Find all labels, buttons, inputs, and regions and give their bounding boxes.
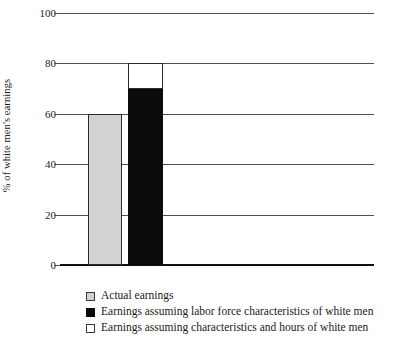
tick-mark-20 bbox=[54, 215, 60, 216]
tick-mark-80 bbox=[54, 63, 60, 64]
legend-item-0[interactable]: Actual earnings bbox=[86, 288, 396, 304]
legend-label-2: Earnings assuming characteristics and ho… bbox=[101, 322, 368, 334]
actual-earnings-bar bbox=[88, 114, 122, 265]
legend-item-2[interactable]: Earnings assuming characteristics and ho… bbox=[86, 320, 396, 336]
y-tick-label-0: 0 bbox=[10, 260, 56, 271]
legend-label-0: Actual earnings bbox=[101, 290, 174, 302]
y-tick-label-100: 100 bbox=[10, 8, 56, 19]
tick-mark-40 bbox=[54, 164, 60, 165]
tick-mark-60 bbox=[54, 114, 60, 115]
legend-item-1[interactable]: Earnings assuming labor force characteri… bbox=[86, 304, 396, 320]
legend-swatch-icon-2 bbox=[86, 324, 95, 333]
y-tick-label-80: 80 bbox=[10, 58, 56, 69]
gridline-80 bbox=[60, 63, 374, 64]
tick-mark-100 bbox=[54, 13, 60, 14]
legend-label-1: Earnings assuming labor force characteri… bbox=[101, 306, 373, 318]
legend-swatch-icon-1 bbox=[86, 308, 95, 317]
y-tick-label-20: 20 bbox=[10, 209, 56, 220]
chart-legend: Actual earningsEarnings assuming labor f… bbox=[86, 288, 396, 336]
gridline-100 bbox=[60, 13, 374, 14]
tick-mark-0 bbox=[54, 265, 60, 266]
legend-swatch-icon-0 bbox=[86, 292, 95, 301]
plot-area bbox=[60, 0, 375, 290]
characteristics-and-hours-bar bbox=[128, 63, 163, 88]
y-tick-label-40: 40 bbox=[10, 159, 56, 170]
y-tick-label-60: 60 bbox=[10, 108, 56, 119]
y-axis-tick-labels: 100806040200 bbox=[8, 0, 56, 290]
labor-force-characteristics-bar bbox=[128, 89, 163, 265]
